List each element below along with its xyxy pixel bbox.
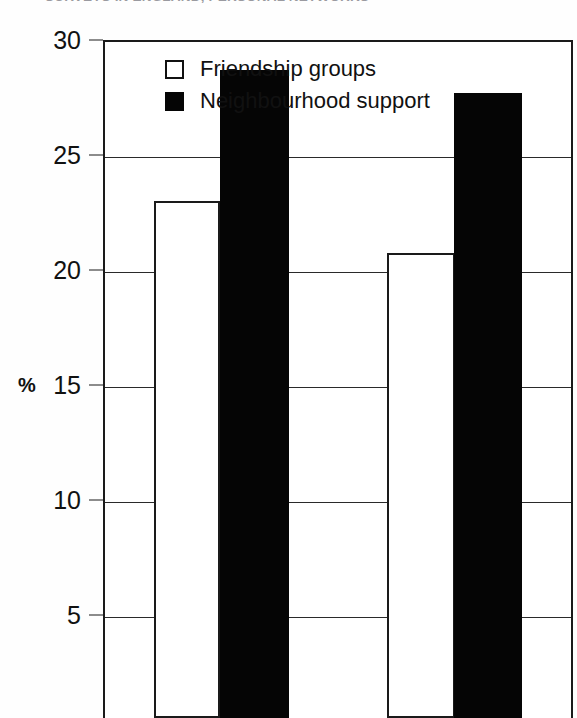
bar-friendship-groups-2 [387, 253, 455, 718]
filled-square-icon [165, 92, 184, 111]
chart-figure: SURVEYS IN ENGLAND, PERSONAL NETWORKS % … [0, 0, 577, 718]
legend-item-neighbourhood-support: Neighbourhood support [165, 90, 430, 112]
y-axis: % 30 25 20 15 10 5 [0, 0, 103, 718]
open-square-icon [165, 60, 184, 79]
y-tick-mark-20 [89, 270, 103, 271]
y-tick-label-25: 25 [53, 141, 81, 170]
y-tick-mark-10 [89, 500, 103, 501]
legend-item-friendship-groups: Friendship groups [165, 58, 430, 80]
y-tick-mark-15 [89, 385, 103, 386]
bar-neighbourhood-support-2 [454, 93, 522, 718]
y-tick-label-30: 30 [53, 26, 81, 55]
y-tick-label-20: 20 [53, 256, 81, 285]
y-tick-mark-25 [89, 155, 103, 156]
bar-neighbourhood-support-1 [220, 70, 289, 718]
bar-friendship-groups-1 [154, 201, 220, 718]
y-tick-mark-30 [89, 40, 103, 41]
y-tick-label-10: 10 [53, 486, 81, 515]
y-tick-label-5: 5 [67, 601, 81, 630]
plot-area [103, 40, 573, 718]
y-tick-mark-5 [89, 615, 103, 616]
legend-label-neighbourhood-support: Neighbourhood support [200, 90, 430, 112]
y-axis-title: % [18, 374, 36, 397]
legend-label-friendship-groups: Friendship groups [200, 58, 376, 80]
y-tick-label-15: 15 [53, 371, 81, 400]
legend: Friendship groups Neighbourhood support [165, 58, 430, 112]
